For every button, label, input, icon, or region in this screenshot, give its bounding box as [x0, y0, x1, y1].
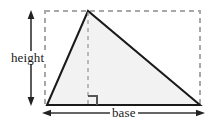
triangle-diagram: height base [0, 0, 211, 122]
height-arrow-head-top [28, 10, 35, 19]
height-label: height [9, 51, 46, 64]
triangle-shape [47, 11, 200, 105]
base-arrow-head-right [196, 110, 205, 117]
height-arrow-head-bottom [28, 97, 35, 106]
base-label: base [110, 106, 138, 119]
base-arrow-head-left [42, 110, 51, 117]
